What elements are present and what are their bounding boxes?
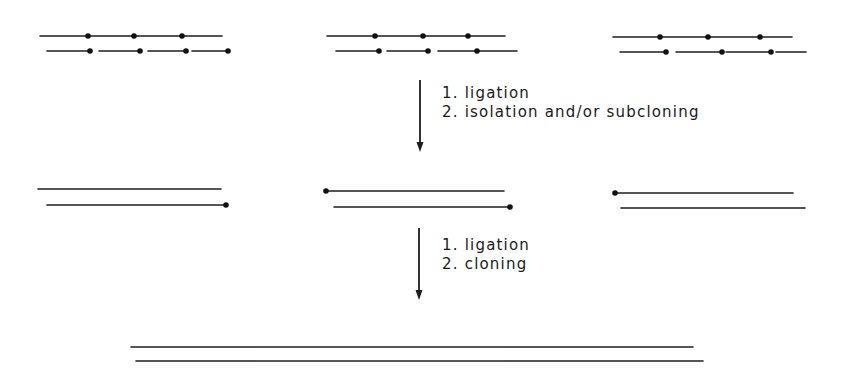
ligation-dot <box>179 33 185 39</box>
ligation-dot <box>225 48 231 54</box>
step2-line2: 2. cloning <box>442 255 527 273</box>
ligation-dot <box>507 204 513 210</box>
step1-line1: 1. ligation <box>442 84 530 102</box>
ligation-dot <box>372 33 378 39</box>
ligation-dot <box>183 48 189 54</box>
ligation-dot <box>612 190 618 196</box>
ligation-dot <box>768 49 774 55</box>
ligation-dot <box>376 48 382 54</box>
process-arrows <box>416 80 424 300</box>
step-label-group-1: 1. ligation 2. isolation and/or subcloni… <box>442 84 700 121</box>
ligation-dot <box>137 48 143 54</box>
ligation-dot <box>719 49 725 55</box>
ligation-dot <box>705 34 711 40</box>
ligation-dot <box>425 48 431 54</box>
ligation-dot <box>420 33 426 39</box>
arrow-down-icon <box>417 142 424 152</box>
ligation-dot <box>87 48 93 54</box>
step2-line1: 1. ligation <box>442 236 530 254</box>
ligation-cloning-diagram: 1. ligation 2. isolation and/or subcloni… <box>0 0 849 368</box>
ligation-site-dots <box>85 33 774 210</box>
ligation-dot <box>657 34 663 40</box>
ligation-dot <box>465 33 471 39</box>
step-label-group-2: 1. ligation 2. cloning <box>442 236 530 273</box>
arrow-down-icon <box>416 290 423 300</box>
step1-line2: 2. isolation and/or subcloning <box>442 103 700 121</box>
ligation-dot <box>85 33 91 39</box>
ligation-dot <box>223 202 229 208</box>
ligation-dot <box>131 33 137 39</box>
ligation-dot <box>663 49 669 55</box>
ligation-dot <box>474 48 480 54</box>
ligation-dot <box>757 34 763 40</box>
ligation-dot <box>323 188 329 194</box>
dna-strands <box>38 36 806 361</box>
